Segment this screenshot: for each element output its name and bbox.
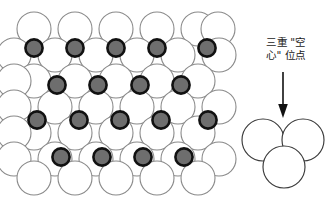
adatom [52, 148, 69, 165]
figure-root: 三重 "空 心" 位点 [0, 0, 332, 198]
adatom [198, 39, 215, 56]
adatom [134, 148, 151, 165]
adatom [111, 111, 128, 128]
label-line-1: 三重 "空 [246, 36, 326, 49]
adatom [152, 111, 169, 128]
detail-circle [263, 146, 305, 188]
adatom [148, 39, 165, 56]
adatom [172, 76, 189, 93]
adatom [93, 148, 110, 165]
adatom [25, 39, 42, 56]
adatom [66, 39, 83, 56]
adatom [70, 111, 87, 128]
adatom [199, 111, 216, 128]
adatom [131, 76, 148, 93]
triple-hollow-site-label: 三重 "空 心" 位点 [246, 36, 326, 63]
adatom [89, 76, 106, 93]
adatom [28, 111, 45, 128]
adatom [48, 76, 65, 93]
adatom [107, 39, 124, 56]
substrate-atom [17, 161, 51, 195]
lattice-diagram [0, 0, 332, 198]
label-line-2: 心" 位点 [246, 49, 326, 62]
adatom [175, 148, 192, 165]
